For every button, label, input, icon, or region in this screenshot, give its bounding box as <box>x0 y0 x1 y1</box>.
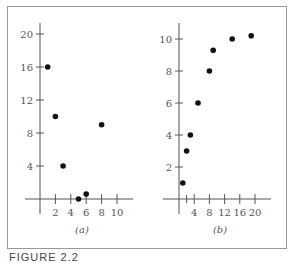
x-tick-label: 4 <box>68 207 74 218</box>
data-point <box>229 36 235 42</box>
y-tick-label: 10 <box>159 34 172 45</box>
x-tick-label: 8 <box>98 207 104 218</box>
scatter-panel-a: 48121620246810(a) <box>20 23 133 235</box>
y-tick-label: 8 <box>27 128 33 139</box>
y-tick-label: 6 <box>166 98 172 109</box>
data-point <box>60 163 66 169</box>
x-tick-label: 6 <box>83 207 89 218</box>
x-tick-label: 4 <box>191 207 197 218</box>
panel-label: (a) <box>75 224 89 235</box>
data-point <box>210 47 216 53</box>
data-point <box>53 114 59 120</box>
x-tick-label: 10 <box>111 207 124 218</box>
data-point <box>207 68 213 74</box>
data-point <box>76 196 82 202</box>
y-tick-label: 4 <box>166 130 172 141</box>
data-point <box>180 180 186 186</box>
y-tick-label: 2 <box>166 162 172 173</box>
data-point <box>188 132 194 138</box>
y-tick-label: 12 <box>20 95 33 106</box>
y-tick-label: 16 <box>20 62 33 73</box>
x-tick-label: 2 <box>52 207 58 218</box>
x-tick-label: 8 <box>206 207 212 218</box>
x-tick-label: 16 <box>233 207 246 218</box>
data-point <box>99 122 105 128</box>
data-point <box>83 191 89 197</box>
x-tick-label: 12 <box>218 207 231 218</box>
data-point <box>195 100 201 106</box>
data-point <box>248 33 254 39</box>
x-tick-label: 20 <box>249 207 262 218</box>
y-tick-label: 8 <box>166 66 172 77</box>
data-point <box>45 64 51 70</box>
figure-caption: FIGURE 2.2 <box>9 251 79 263</box>
scatter-panel-b: 24681048121620(b) <box>159 23 271 235</box>
y-tick-label: 20 <box>20 29 33 40</box>
panel-label: (b) <box>213 224 227 235</box>
data-point <box>184 148 190 154</box>
y-tick-label: 4 <box>27 161 33 172</box>
